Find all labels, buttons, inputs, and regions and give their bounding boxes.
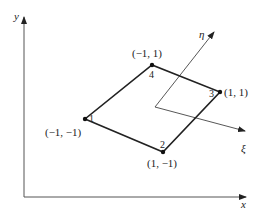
node-1-dot [83,117,87,121]
node-2-number: 2 [160,139,165,150]
quadrilateral-element-diagram: y x η ξ 1 (−1, −1) 2 (1, −1) 3 (1, 1) 4 … [0,0,261,219]
node-2-coords: (1, −1) [147,157,177,170]
xi-axis-label: ξ [241,142,246,155]
node-3-dot [218,90,222,94]
xi-axis [155,107,245,131]
global-axes: y x [13,10,246,210]
node-1-number: 1 [89,113,94,124]
node-4-number: 4 [149,69,154,80]
node-3-coords: (1, 1) [224,86,248,99]
node-3-number: 3 [209,88,214,99]
node-1-coords: (−1, −1) [45,126,82,139]
node-2: 2 (1, −1) [147,139,177,170]
node-4-dot [150,63,154,67]
eta-axis-label: η [199,28,204,40]
node-4: 4 (−1, 1) [132,47,162,80]
node-4-coords: (−1, 1) [132,47,162,60]
y-axis-label: y [13,10,19,22]
x-axis-label: x [240,198,246,210]
node-2-dot [161,150,165,154]
